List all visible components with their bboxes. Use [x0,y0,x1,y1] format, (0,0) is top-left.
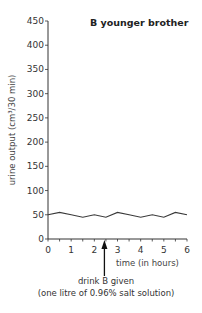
y-tick-label: 150 [27,161,44,171]
y-tick-label: 450 [27,16,44,26]
x-tick-label: 3 [115,245,121,255]
y-tick-label: 50 [33,210,45,220]
y-tick-label: 200 [27,137,44,147]
x-tick-label: 1 [68,245,74,255]
x-axis-label: time (in hours) [116,258,179,268]
chart-title: B younger brother [90,17,189,28]
annotation-line-2: (one litre of 0.96% salt solution) [38,288,175,298]
y-tick-label: 250 [27,113,44,123]
x-tick-label: 4 [138,245,144,255]
x-tick-label: 5 [161,245,167,255]
y-tick-label: 400 [27,40,44,50]
annotation-line-1: drink B given [78,276,134,286]
drink-given-arrow-icon [101,240,107,276]
x-tick-label: 0 [45,245,51,255]
y-tick-label: 0 [38,234,44,244]
y-tick-label: 350 [27,64,44,74]
urine-output-line [48,212,187,217]
y-tick-label: 300 [27,89,44,99]
y-axis-ticks: 050100150200250300350400450 [27,16,48,244]
line-chart: B younger brother 0501001502002503003504… [0,0,202,313]
y-axis-label: urine output (cm³/30 min) [7,75,17,186]
y-tick-label: 100 [27,186,44,196]
x-tick-label: 6 [184,245,190,255]
x-tick-label: 2 [91,245,97,255]
x-axis-ticks: 0123456 [45,239,190,255]
